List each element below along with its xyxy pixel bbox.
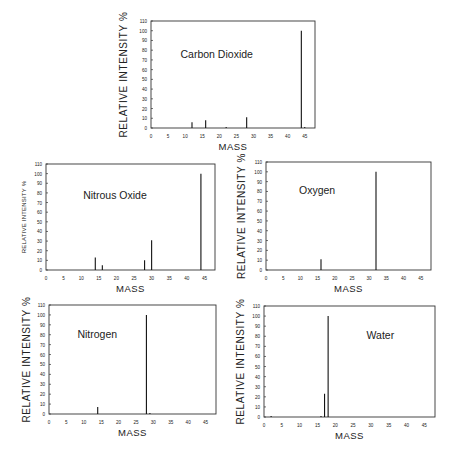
chart-nitrogen-plot: 0102030405060708090100110051015202530354… [21,296,216,438]
y-tick-label: 80 [40,333,46,338]
x-tick-label: 25 [349,276,355,281]
x-tick-label: 25 [131,276,137,281]
x-tick-label: 40 [186,420,192,425]
y-tick-label: 70 [142,58,148,63]
y-tick-label: 60 [255,354,261,359]
x-tick-label: 5 [281,423,284,428]
y-axis-label: RELATIVE INTENSITY % [236,153,247,279]
chart-nitrous-oxide-plot: 0102030405060708090100110051015202530354… [21,162,215,294]
y-tick-label: 70 [40,343,46,348]
x-tick-label: 15 [315,276,321,281]
plot-frame [264,306,435,417]
x-tick-label: 40 [184,276,190,281]
y-tick-label: 90 [257,180,263,185]
y-axis-label: RELATIVE INTENSITY % [21,180,27,253]
y-tick-label: 0 [259,268,262,273]
y-tick-label: 50 [142,77,148,82]
y-tick-label: 40 [37,229,43,234]
x-tick-label: 15 [200,134,206,139]
y-tick-label: 20 [40,392,46,397]
x-tick-label: 20 [217,134,223,139]
y-tick-label: 20 [257,248,263,253]
y-tick-label: 10 [257,258,263,263]
x-tick-label: 15 [99,420,105,425]
y-tick-label: 10 [142,116,148,121]
y-tick-label: 50 [257,219,263,224]
x-tick-label: 40 [401,276,407,281]
x-tick-label: 10 [81,420,87,425]
y-tick-label: 40 [257,229,263,234]
y-tick-label: 80 [142,48,148,53]
x-tick-label: 10 [297,423,303,428]
y-tick-label: 90 [37,181,43,186]
y-tick-label: 80 [257,189,263,194]
y-tick-label: 60 [37,210,43,215]
x-tick-label: 10 [298,276,304,281]
y-tick-label: 110 [35,162,43,167]
y-tick-label: 50 [37,220,43,225]
x-axis-label: MASS [118,427,147,438]
x-tick-label: 30 [151,420,157,425]
y-tick-label: 30 [142,97,148,102]
x-tick-label: 0 [45,276,48,281]
x-tick-label: 5 [65,420,68,425]
x-tick-label: 5 [282,276,285,281]
chart-oxygen-plot: 0102030405060708090100110051015202530354… [236,153,431,294]
y-tick-label: 30 [257,239,263,244]
y-tick-label: 100 [252,314,260,319]
y-tick-label: 20 [142,107,148,112]
x-tick-label: 35 [384,276,390,281]
y-tick-label: 40 [142,87,148,92]
x-axis-label: MASS [335,430,364,441]
y-axis-label: RELATIVE INTENSITY % [21,296,32,422]
y-tick-label: 100 [139,29,147,34]
chart-carbon-dioxide-plot: 0102030405060708090100110051015202530354… [118,11,315,152]
plot-frame [49,305,216,414]
x-tick-label: 35 [386,423,392,428]
x-tick-label: 5 [167,134,170,139]
y-tick-label: 80 [37,191,43,196]
y-tick-label: 110 [140,19,148,24]
y-tick-label: 10 [255,405,261,410]
x-tick-label: 25 [234,134,240,139]
y-tick-label: 110 [38,303,46,308]
x-tick-label: 15 [315,423,321,428]
y-tick-label: 40 [40,372,46,377]
y-axis-label: RELATIVE INTENSITY % [118,11,129,137]
chart-water-plot: 0102030405060708090100110051015202530354… [235,298,435,441]
y-tick-label: 30 [255,385,261,390]
x-tick-label: 0 [48,420,51,425]
x-tick-label: 10 [79,276,85,281]
x-tick-label: 0 [150,134,153,139]
y-tick-label: 70 [255,344,261,349]
x-tick-label: 35 [167,276,173,281]
x-tick-label: 35 [168,420,174,425]
x-tick-label: 20 [333,423,339,428]
y-tick-label: 80 [255,334,261,339]
x-tick-label: 20 [332,276,338,281]
y-tick-label: 30 [40,382,46,387]
x-tick-label: 25 [351,423,357,428]
x-tick-label: 20 [114,276,120,281]
y-tick-label: 0 [39,268,42,273]
x-axis-label: MASS [219,141,248,152]
y-tick-label: 60 [142,68,148,73]
x-tick-label: 45 [202,276,208,281]
y-tick-label: 40 [255,375,261,380]
y-axis-label: RELATIVE INTENSITY % [235,298,246,424]
x-tick-label: 45 [203,420,209,425]
y-tick-label: 110 [253,304,261,309]
y-tick-label: 10 [40,402,46,407]
y-tick-label: 70 [37,201,43,206]
chart-title: Water [367,329,395,341]
x-tick-label: 30 [367,276,373,281]
x-tick-label: 5 [62,276,65,281]
y-tick-label: 60 [257,209,263,214]
x-tick-label: 35 [268,134,274,139]
y-tick-label: 70 [257,199,263,204]
y-tick-label: 110 [255,160,263,165]
y-tick-label: 100 [37,313,45,318]
x-tick-label: 30 [368,423,374,428]
x-tick-label: 30 [149,276,155,281]
x-axis-label: MASS [334,283,363,294]
